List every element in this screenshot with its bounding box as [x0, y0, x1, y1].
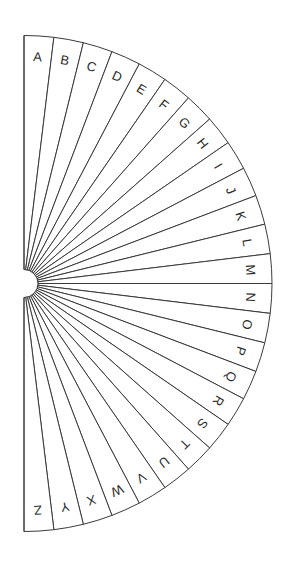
sector-label-a: A: [33, 49, 43, 65]
sector-label-z: Z: [33, 502, 42, 517]
alphabet-fan-svg: ABCDEFGHIJKLMNOPQRSTUVWXYZ: [0, 0, 288, 571]
sector-label-n: N: [243, 292, 259, 302]
sector-label-m: M: [243, 264, 259, 276]
fan-diagram-canvas: ABCDEFGHIJKLMNOPQRSTUVWXYZ: [0, 0, 288, 571]
sector-group: [24, 36, 272, 532]
